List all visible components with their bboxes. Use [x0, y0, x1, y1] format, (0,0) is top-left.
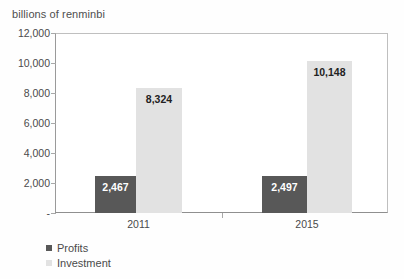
- y-axis-tick-label: 2,000: [4, 177, 50, 189]
- legend-item-profits[interactable]: Profits: [46, 240, 111, 255]
- bar-profits-2015: 2,497: [262, 176, 307, 213]
- legend-item-label: Investment: [57, 257, 111, 269]
- y-axis-tick-label: -: [4, 207, 50, 219]
- legend-swatch-icon: [46, 260, 52, 266]
- y-axis-tick-mark: [51, 123, 56, 124]
- y-axis-tick-label: 4,000: [4, 147, 50, 159]
- y-axis-tick-mark: [51, 183, 56, 184]
- chart-title: billions of renminbi: [12, 8, 105, 20]
- y-axis-tick-mark: [51, 93, 56, 94]
- y-axis-tick-label: 12,000: [4, 27, 50, 39]
- bar-value-label: 2,497: [262, 181, 307, 193]
- y-axis-tick-label: 10,000: [4, 57, 50, 69]
- bar-value-label: 2,467: [95, 181, 136, 193]
- y-axis-tick-mark: [51, 33, 56, 34]
- bar-investment-2011: 8,324: [136, 88, 182, 213]
- y-axis-tick-label: 8,000: [4, 87, 50, 99]
- chart-figure: billions of renminbi 12,00010,0008,0006,…: [0, 0, 404, 279]
- x-axis-tick-mark: [222, 213, 223, 218]
- legend-swatch-icon: [46, 245, 52, 251]
- legend-item-investment[interactable]: Investment: [46, 255, 111, 270]
- bar-profits-2011: 2,467: [95, 176, 136, 213]
- y-axis-tick-mark: [51, 213, 56, 214]
- bar-value-label: 8,324: [136, 93, 182, 105]
- y-axis-tick-mark: [51, 153, 56, 154]
- y-axis-tick-label: 6,000: [4, 117, 50, 129]
- bar-value-label: 10,148: [307, 66, 352, 78]
- x-axis-tick-label: 2015: [295, 218, 318, 230]
- y-axis-tick-mark: [51, 63, 56, 64]
- bar-investment-2015: 10,148: [307, 61, 352, 213]
- chart-legend: ProfitsInvestment: [46, 240, 111, 270]
- legend-item-label: Profits: [57, 242, 88, 254]
- x-axis-tick-label: 2011: [127, 218, 150, 230]
